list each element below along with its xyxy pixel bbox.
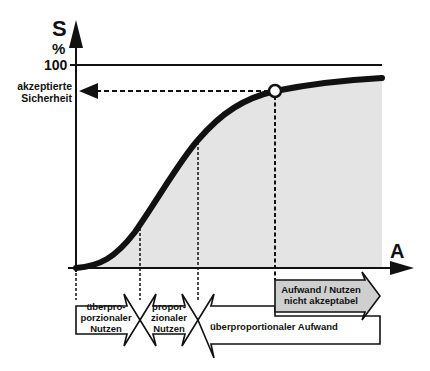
- unacceptable-label: Aufwand / Nutzen nicht akzeptabel: [276, 285, 366, 307]
- area-under-curve: [76, 78, 382, 268]
- phase-label-overproportional-benefit: überpro- porzionaler Nutzen: [80, 302, 132, 335]
- y-axis-arrowhead: [69, 20, 83, 48]
- x-axis-symbol: A: [390, 240, 404, 263]
- y-tick-100-label: 100: [44, 57, 67, 73]
- y-axis-unit: %: [52, 40, 65, 57]
- phase-label-proportional-benefit: propor- zionaler Nutzen: [148, 302, 190, 335]
- y-axis-symbol: S: [52, 16, 67, 41]
- x-axis-arrowhead: [390, 261, 414, 275]
- accepted-level-arrowhead: [79, 83, 98, 99]
- phase-label-overproportional-effort: überproportionaler Aufwand: [210, 322, 380, 333]
- accepted-safety-label: akzeptierte Sicherheit: [2, 80, 72, 104]
- accepted-point-marker: [269, 85, 281, 97]
